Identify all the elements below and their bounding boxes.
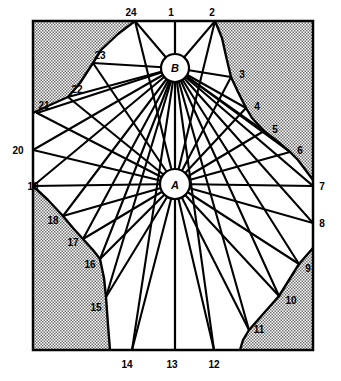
boundary-label-18: 18	[47, 215, 59, 226]
node-B-label: B	[171, 62, 179, 74]
boundary-label-1: 1	[168, 7, 174, 18]
boundary-label-20: 20	[12, 145, 24, 156]
node-B[interactable]: B	[161, 54, 189, 82]
boundary-label-7: 7	[319, 181, 325, 192]
boundary-label-22: 22	[71, 84, 83, 95]
boundary-label-8: 8	[319, 218, 325, 229]
boundary-label-9: 9	[305, 263, 311, 274]
boundary-label-2: 2	[209, 7, 215, 18]
diagram-root: B A 1 2 3 4 5 6 7 8 9 10 11 12 13 14 15 …	[0, 0, 341, 381]
boundary-label-15: 15	[90, 302, 102, 313]
boundary-label-5: 5	[272, 124, 278, 135]
boundary-label-23: 23	[94, 50, 106, 61]
boundary-label-13: 13	[166, 359, 178, 370]
node-A[interactable]: A	[160, 169, 190, 199]
boundary-label-17: 17	[67, 237, 79, 248]
boundary-label-16: 16	[84, 259, 96, 270]
boundary-label-14: 14	[121, 359, 133, 370]
boundary-label-10: 10	[285, 295, 297, 306]
ray-diagram-svg: B A 1 2 3 4 5 6 7 8 9 10 11 12 13 14 15 …	[0, 0, 341, 381]
boundary-label-21: 21	[38, 100, 50, 111]
boundary-label-3: 3	[239, 69, 245, 80]
boundary-label-11: 11	[254, 324, 265, 335]
boundary-label-19: 19	[27, 181, 39, 192]
boundary-label-24: 24	[125, 7, 137, 18]
node-A-label: A	[170, 179, 179, 191]
boundary-label-6: 6	[297, 145, 303, 156]
boundary-label-4: 4	[254, 101, 260, 112]
boundary-label-12: 12	[208, 359, 220, 370]
